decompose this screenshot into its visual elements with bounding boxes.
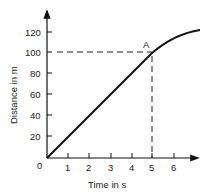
y-axis-title: Distance in m bbox=[8, 66, 19, 124]
y-tick-label: 120 bbox=[25, 27, 41, 38]
point-a-label: A bbox=[143, 39, 150, 50]
x-tick-label: 1 bbox=[65, 162, 70, 173]
origin-label: 0 bbox=[37, 160, 42, 171]
y-tick-label: 60 bbox=[30, 89, 41, 100]
x-tick-label: 3 bbox=[108, 162, 113, 173]
distance-curve bbox=[47, 30, 200, 158]
y-ticks bbox=[47, 32, 52, 136]
x-ticks bbox=[68, 153, 174, 158]
x-tick-label: 2 bbox=[86, 162, 91, 173]
y-tick-label: 80 bbox=[30, 68, 41, 79]
x-tick-label: 5 bbox=[149, 162, 154, 173]
x-tick-label: 6 bbox=[171, 162, 176, 173]
x-axis-title: Time in s bbox=[88, 179, 126, 190]
distance-time-chart: 0 1 2 3 4 5 6 20 40 60 80 100 120 Time i… bbox=[0, 0, 207, 195]
y-tick-label: 20 bbox=[30, 131, 41, 142]
y-tick-label: 100 bbox=[25, 47, 41, 58]
y-tick-label: 40 bbox=[30, 110, 41, 121]
x-tick-label: 4 bbox=[129, 162, 134, 173]
